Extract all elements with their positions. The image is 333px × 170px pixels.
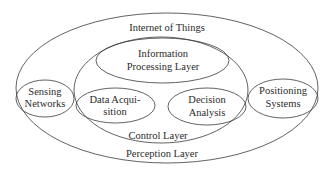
control-layer-label: Control Layer — [128, 130, 188, 141]
internet-of-things-label: Internet of Things — [129, 22, 205, 33]
perception-layer-label: Perception Layer — [126, 148, 199, 159]
information-processing-label-line1: Information — [138, 48, 189, 59]
iot-architecture-diagram: Internet of Things Information Processin… — [0, 0, 333, 170]
positioning-systems-label-line2: Systems — [265, 98, 300, 109]
sensing-networks-label-line1: Sensing — [28, 86, 62, 97]
decision-analysis-label-line2: Analysis — [189, 107, 226, 118]
sensing-networks-label-line2: Networks — [25, 98, 66, 109]
positioning-systems-label-line1: Positioning — [259, 85, 308, 96]
data-acquisition-label-line2: sition — [103, 106, 127, 117]
decision-analysis-label-line1: Decision — [188, 94, 226, 105]
information-processing-label-line2: Processing Layer — [127, 61, 200, 72]
data-acquisition-label-line1: Data Acqui- — [89, 94, 141, 105]
